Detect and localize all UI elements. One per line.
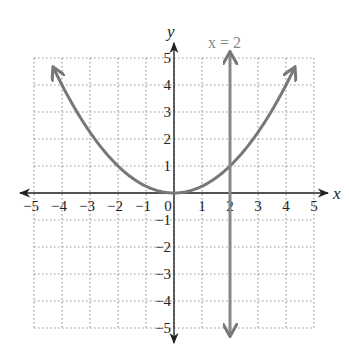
y-axis-label: y [165,22,175,41]
svg-text:−1: −1 [135,198,151,214]
svg-text:1: 1 [164,158,172,174]
svg-text:−2: −2 [155,239,171,255]
svg-text:−4: −4 [155,293,171,309]
line-label-x-equals-2: x = 2 [208,34,241,51]
svg-text:3: 3 [164,104,172,120]
svg-text:3: 3 [254,198,262,214]
svg-text:−2: −2 [107,198,123,214]
svg-text:−5: −5 [155,320,171,336]
x-axis-label: x [332,184,341,203]
svg-text:−1: −1 [155,212,171,228]
svg-text:5: 5 [310,198,318,214]
svg-text:1: 1 [198,198,206,214]
svg-text:4: 4 [282,198,290,214]
svg-text:−5: −5 [23,198,39,214]
svg-text:2: 2 [164,131,172,147]
svg-text:5: 5 [164,50,172,66]
svg-text:−3: −3 [79,198,95,214]
svg-text:4: 4 [164,77,172,93]
svg-text:−3: −3 [155,266,171,282]
chart-plot: −5−4−3−2−101234554321−1−2−3−4−5 x y x = … [0,0,349,350]
svg-text:−4: −4 [51,198,67,214]
